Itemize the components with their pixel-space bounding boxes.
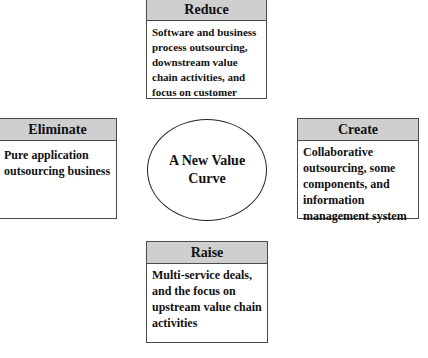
center-label-line2: Curve	[169, 170, 245, 188]
eliminate-box: Eliminate Pure application outsourcing b…	[0, 118, 117, 219]
create-box: Create Collaborative outsourcing, some c…	[297, 118, 419, 219]
reduce-text: Software and business process outsourcin…	[147, 21, 266, 103]
center-label-line1: A New Value	[169, 152, 245, 170]
create-header: Create	[298, 119, 418, 141]
center-label: A New Value Curve	[169, 152, 245, 188]
eliminate-text: Pure application outsourcing business	[0, 141, 116, 182]
raise-box: Raise Multi-service deals, and the focus…	[146, 241, 268, 343]
raise-text: Multi-service deals, and the focus on up…	[147, 264, 267, 334]
create-text: Collaborative outsourcing, some componen…	[298, 141, 418, 227]
center-ellipse: A New Value Curve	[147, 119, 267, 221]
raise-header: Raise	[147, 242, 267, 264]
reduce-header: Reduce	[147, 0, 266, 21]
reduce-box: Reduce Software and business process out…	[146, 0, 267, 99]
eliminate-header: Eliminate	[0, 119, 116, 141]
